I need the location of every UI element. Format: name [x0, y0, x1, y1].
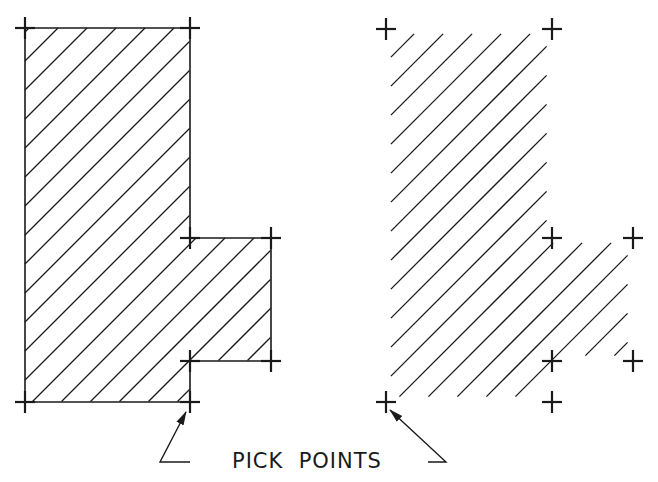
leader-arrow — [160, 412, 190, 462]
hatch-line — [391, 133, 547, 289]
hatch-pattern — [25, 28, 271, 402]
hatch-line — [515, 284, 627, 396]
pick-point-cross-icon — [261, 227, 281, 249]
hatch-line — [25, 28, 58, 61]
hatch-line — [614, 342, 627, 355]
boundary-outline — [25, 28, 271, 402]
pick-point-cross-icon — [15, 17, 35, 39]
pick-points — [376, 18, 643, 413]
hatch-line — [25, 28, 116, 119]
hatch-line — [486, 255, 627, 396]
diagram-canvas — [0, 0, 658, 482]
hatch-line — [391, 34, 443, 86]
hatch-line — [428, 243, 582, 397]
pick-point-cross-icon — [376, 391, 396, 413]
hatch-line — [391, 104, 547, 260]
hatch-line — [219, 309, 271, 361]
hatch-pattern — [391, 34, 628, 397]
pick-point-cross-icon — [180, 391, 200, 413]
hatch-line — [25, 28, 145, 148]
pick-points-label: PICK POINTS — [232, 449, 382, 473]
hatch-line — [120, 251, 271, 402]
hatch-line — [25, 28, 174, 177]
pick-point-cross-icon — [542, 227, 562, 249]
hatch-line — [457, 243, 611, 397]
hatch-line — [391, 162, 547, 318]
hatch-line — [178, 390, 190, 402]
pick-point-cross-icon — [623, 350, 643, 372]
pick-point-cross-icon — [542, 18, 562, 40]
hatch-line — [391, 34, 414, 57]
hatch-line — [25, 28, 87, 90]
hatch-line — [248, 338, 271, 361]
hatch-line — [391, 46, 547, 202]
pick-point-cross-icon — [623, 227, 643, 249]
hatched-region-without-boundary — [376, 18, 643, 462]
pick-point-cross-icon — [180, 17, 200, 39]
pick-point-cross-icon — [15, 391, 35, 413]
hatch-line — [391, 75, 547, 231]
pick-point-cross-icon — [261, 350, 281, 372]
hatch-line — [391, 191, 547, 347]
hatch-line — [391, 34, 501, 144]
leader-arrow — [390, 410, 446, 462]
hatch-line — [391, 220, 547, 376]
pick-point-cross-icon — [376, 18, 396, 40]
hatch-line — [149, 280, 271, 402]
pick-points — [15, 17, 281, 413]
pick-point-cross-icon — [542, 391, 562, 413]
pick-point-cross-icon — [180, 227, 200, 249]
hatched-region-with-boundary — [15, 17, 281, 462]
hatch-line — [391, 34, 530, 173]
hatch-line — [399, 243, 553, 397]
